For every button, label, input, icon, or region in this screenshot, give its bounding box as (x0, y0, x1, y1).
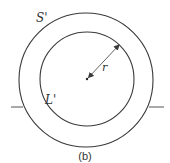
radius-label: r (102, 61, 108, 74)
diagram-canvas: S' L' r (b) (0, 0, 170, 163)
outer-circle-s-prime (19, 13, 153, 147)
figure-caption: (b) (78, 150, 91, 162)
outer-circle-label: S' (36, 11, 48, 25)
inner-circle-label: L' (44, 93, 56, 107)
center-point (86, 78, 88, 80)
